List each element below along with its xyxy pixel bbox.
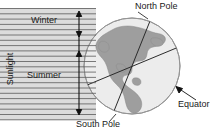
label-winter: Winter [31, 15, 57, 25]
label-sunlight: Sunlight [5, 47, 15, 91]
equator-leader [176, 87, 196, 101]
north-pole-leader [138, 12, 148, 19]
sunlight-seasons-diagram: Winter Summer Sunlight North Pole South … [0, 0, 214, 138]
label-north-pole: North Pole [135, 1, 178, 11]
label-equator: Equator [178, 99, 210, 109]
label-south-pole: South Pole [76, 119, 120, 129]
label-summer: Summer [27, 70, 61, 80]
